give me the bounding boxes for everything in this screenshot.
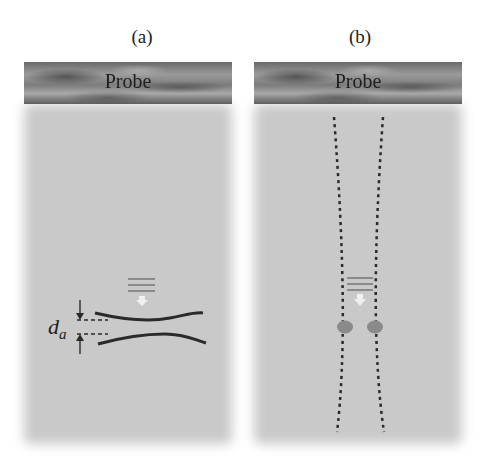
vessel-wall-upper	[95, 313, 203, 320]
diagram-overlay: da	[0, 0, 483, 467]
scatterer-right	[367, 321, 383, 334]
wave-front-icon	[347, 278, 373, 290]
down-arrow-icon	[354, 294, 366, 306]
beam-boundary-left	[334, 117, 343, 432]
arrow-down-icon	[76, 313, 84, 320]
vessel-wall-lower	[98, 334, 206, 344]
dimension-label: da	[48, 314, 67, 342]
beam-boundary-right	[376, 117, 384, 432]
arrow-up-icon	[76, 334, 84, 341]
down-arrow-icon	[136, 296, 148, 306]
wave-front-icon	[128, 279, 155, 291]
dimension-marker	[77, 300, 108, 354]
scatterer-left	[337, 321, 353, 334]
